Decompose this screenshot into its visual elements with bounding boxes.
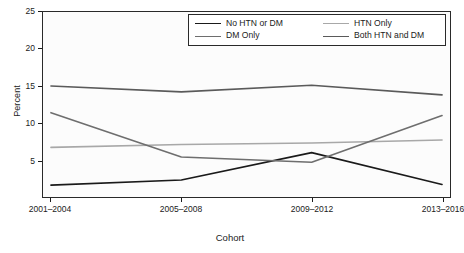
x-tick-mark <box>50 198 51 202</box>
x-axis-title: Cohort <box>0 232 460 243</box>
y-tick-label: 25 <box>13 7 35 16</box>
legend-label: Both HTN and DM <box>354 31 424 40</box>
x-tick-label: 2009–2012 <box>291 204 334 214</box>
legend-label: HTN Only <box>354 19 392 28</box>
y-axis-ticks: 510152025 <box>0 0 35 253</box>
legend-color-swatch <box>195 23 221 24</box>
series-line <box>51 85 442 95</box>
x-tick-label: 2001–2004 <box>29 204 72 214</box>
series-line <box>51 140 442 147</box>
y-tick-label: 15 <box>13 82 35 91</box>
legend-label: No HTN or DM <box>226 19 283 28</box>
legend-color-swatch <box>195 36 221 37</box>
y-tick-label: 5 <box>13 156 35 165</box>
y-tick-label: 10 <box>13 119 35 128</box>
x-tick-mark <box>312 198 313 202</box>
chart-legend: No HTN or DMHTN OnlyDM OnlyBoth HTN and … <box>188 14 446 46</box>
x-tick-mark <box>181 198 182 202</box>
x-tick-label: 2005–2008 <box>160 204 203 214</box>
x-tick-mark <box>443 198 444 202</box>
legend-entry: DM Only <box>195 31 323 40</box>
y-tick-label: 20 <box>13 44 35 53</box>
series-line <box>51 153 442 186</box>
legend-entry: Both HTN and DM <box>323 31 439 40</box>
legend-label: DM Only <box>226 31 259 40</box>
x-tick-label: 2013–2016 <box>422 204 464 214</box>
legend-entry: No HTN or DM <box>195 19 323 28</box>
series-line <box>51 113 442 163</box>
legend-color-swatch <box>323 23 349 24</box>
legend-color-swatch <box>323 36 349 37</box>
legend-entry: HTN Only <box>323 19 439 28</box>
